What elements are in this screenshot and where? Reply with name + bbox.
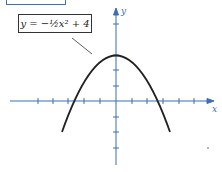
x-axis-arrow-icon: [207, 99, 214, 104]
equation-label: y = −½x² + 4: [18, 14, 92, 33]
x-axis-label: x: [212, 104, 217, 114]
label-leader-line: [72, 38, 92, 54]
y-axis-label: y: [120, 6, 127, 16]
y-axis-arrow-icon: [114, 8, 119, 15]
